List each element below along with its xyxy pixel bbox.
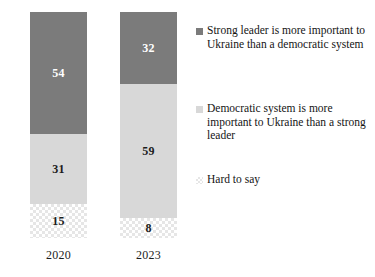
legend-label-democratic-system: Democratic system is more important to U… [207,102,373,143]
bar-segment-democratic-system-2023[interactable]: 59 [120,84,177,217]
legend-item-hard-to-say[interactable]: Hard to say [196,173,375,187]
bar-value-label: 31 [52,163,64,175]
bar-segment-hard-to-say-2023[interactable]: 8 [120,218,177,238]
legend-item-strong-leader[interactable]: Strong leader is more important to Ukrai… [196,24,375,51]
axis-category-label-2023: 2023 [120,248,177,263]
bar-group-2020: 54 31 15 2020 [30,12,87,238]
bar-segment-democratic-system-2020[interactable]: 31 [30,134,87,204]
bar-segment-strong-leader-2023[interactable]: 32 [120,12,177,84]
legend-label-hard-to-say: Hard to say [207,173,260,187]
legend-label-strong-leader: Strong leader is more important to Ukrai… [207,24,373,51]
legend-swatch-democratic-system-icon [196,106,203,113]
axis-category-label-2020: 2020 [30,248,87,263]
chart-legend: Strong leader is more important to Ukrai… [196,0,375,277]
stacked-bar-2023[interactable]: 32 59 8 [120,12,177,238]
bar-segment-hard-to-say-2020[interactable]: 15 [30,204,87,238]
legend-swatch-strong-leader-icon [196,28,203,35]
stacked-bar-2020[interactable]: 54 31 15 [30,12,87,238]
bar-value-label: 59 [142,145,154,157]
bar-segment-strong-leader-2020[interactable]: 54 [30,12,87,134]
bar-value-label: 15 [52,215,64,227]
legend-swatch-hard-to-say-icon [196,177,203,184]
stacked-bar-chart: 54 31 15 2020 32 59 8 [0,0,375,277]
bar-group-2023: 32 59 8 2023 [120,12,177,238]
plot-area: 54 31 15 2020 32 59 8 [0,0,190,277]
bar-value-label: 32 [142,42,154,54]
legend-item-democratic-system[interactable]: Democratic system is more important to U… [196,102,375,143]
bar-value-label: 54 [52,67,64,79]
bar-value-label: 8 [145,222,151,234]
